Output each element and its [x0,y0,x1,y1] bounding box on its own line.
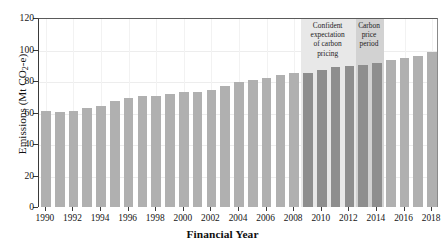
x-axis-tick [321,207,322,211]
x-axis-tick-label: 2018 [414,213,445,223]
x-axis-tick [266,207,267,211]
x-axis-tick [45,207,46,211]
bar-2002 [207,90,217,207]
x-axis-tick [72,207,73,211]
x-axis-tick [376,207,377,211]
bar-2001 [193,92,203,207]
bar-1996 [124,98,134,207]
x-axis-tick [431,207,432,211]
x-axis-tick [128,207,129,211]
bar-2017 [413,56,423,207]
bar-1999 [165,94,175,207]
bar-2016 [400,58,410,207]
bar-2010 [317,70,327,207]
bar-2013 [358,65,368,207]
bar-1992 [69,111,79,207]
bar-2018 [427,52,437,207]
bar-2011 [331,67,341,207]
x-axis-tick [155,207,156,211]
bar-2004 [234,82,244,207]
y-axis-title-main: Emissions (Mt CO [16,70,28,154]
x-axis-tick [348,207,349,211]
bar-1995 [110,101,120,207]
x-axis-tick [293,207,294,211]
bar-1998 [151,96,161,207]
bar-2007 [276,75,286,207]
bar-2015 [386,60,396,207]
bar-1994 [96,106,106,207]
bar-2014 [372,63,382,207]
bar-1990 [41,111,51,207]
ghost-text-remnant [60,1,360,9]
emissions-bar-chart-figure: 020406080100120 Emissions (Mt CO2-e) Con… [0,0,445,246]
y-axis-title-subscript: 2 [21,66,30,70]
x-axis-tick [100,207,101,211]
x-axis-title: Financial Year [0,228,445,240]
y-axis-title: Emissions (Mt CO2-e) [16,9,28,199]
y-axis-tick-label: 0 [29,202,34,212]
plot-area [38,18,438,207]
bar-2009 [303,73,313,208]
bar-2008 [289,73,299,207]
x-axis-tick [404,207,405,211]
y-axis-title-tail: -e) [16,54,28,66]
x-axis-tick [210,207,211,211]
x-axis-tick [183,207,184,211]
bar-2006 [262,78,272,207]
bar-2003 [220,86,230,207]
bar-2000 [179,92,189,207]
bar-2012 [345,66,355,207]
bar-1997 [138,96,148,207]
x-axis-tick [238,207,239,211]
bar-1991 [55,112,65,207]
bar-1993 [82,108,92,207]
bar-2005 [248,80,258,207]
